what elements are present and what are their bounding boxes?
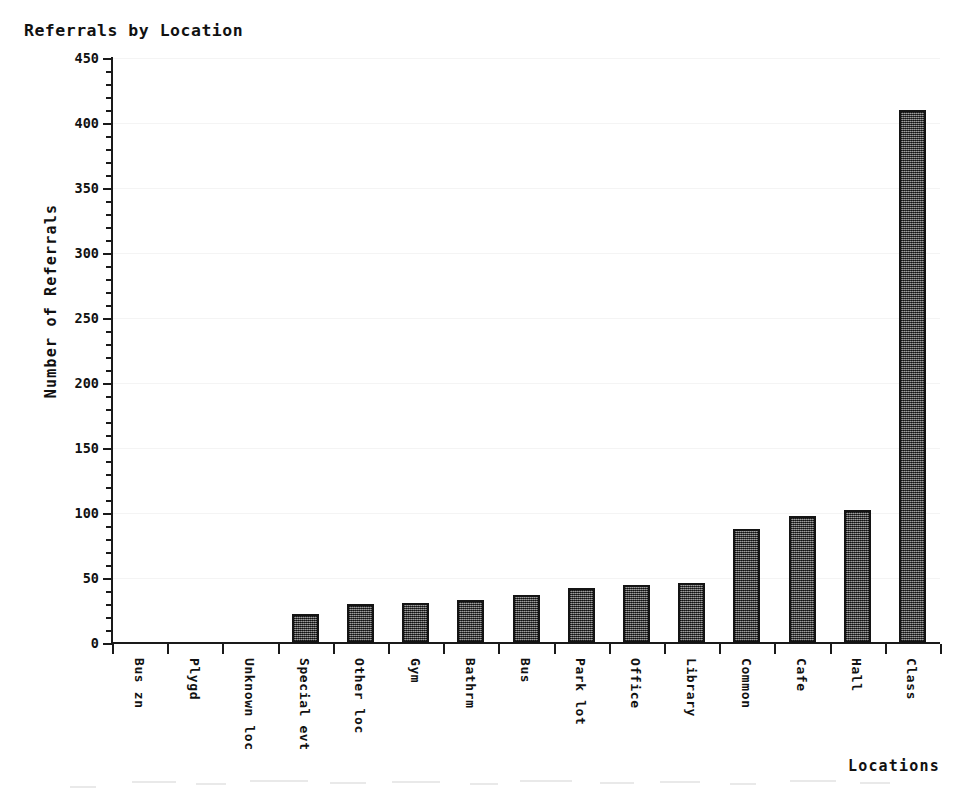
x-tick-label: Class — [901, 658, 919, 797]
y-tick-major — [103, 578, 112, 580]
x-tick — [443, 644, 445, 654]
y-tick-label: 50 — [37, 570, 99, 586]
scan-artifact — [660, 781, 700, 783]
y-tick-label: 250 — [37, 310, 99, 326]
y-tick-label: 100 — [37, 505, 99, 521]
y-tick-major — [103, 448, 112, 450]
y-axis-tick-labels: 050100150200250300350400450 — [33, 0, 99, 797]
scan-artifact — [392, 781, 440, 783]
x-tick — [885, 644, 887, 654]
x-tick — [278, 644, 280, 654]
bar[interactable] — [347, 604, 374, 643]
y-tick-major — [103, 188, 112, 190]
scan-artifact — [520, 780, 572, 782]
x-tick — [112, 644, 114, 654]
bar[interactable] — [899, 110, 926, 643]
scan-artifact — [470, 783, 498, 785]
x-tick-label: Park lot — [570, 658, 588, 797]
y-tick-label: 300 — [37, 245, 99, 261]
y-tick-major — [103, 513, 112, 515]
x-tick — [222, 644, 224, 654]
x-tick — [167, 644, 169, 654]
y-tick-major — [103, 123, 112, 125]
y-tick-label: 0 — [37, 635, 99, 651]
x-tick-label: Office — [625, 658, 643, 797]
y-tick-label: 450 — [37, 50, 99, 66]
x-tick — [498, 644, 500, 654]
x-tick — [554, 644, 556, 654]
x-tick-label: Gym — [405, 658, 423, 797]
bar[interactable] — [568, 588, 595, 643]
x-tick-label: Hall — [846, 658, 864, 797]
x-tick — [609, 644, 611, 654]
scan-artifact — [330, 782, 366, 784]
x-tick-label: Other loc — [349, 658, 367, 797]
bar[interactable] — [292, 614, 319, 643]
x-tick — [830, 644, 832, 654]
x-tick — [940, 644, 942, 654]
x-tick-label: Special evt — [294, 658, 312, 797]
x-tick-label: Plygd — [184, 658, 202, 797]
x-tick — [388, 644, 390, 654]
scan-artifact — [790, 780, 836, 782]
scan-artifact — [196, 783, 226, 785]
bar[interactable] — [623, 585, 650, 644]
x-tick-label: Common — [736, 658, 754, 797]
scan-artifact — [860, 782, 890, 784]
y-tick-major — [103, 643, 112, 645]
x-tick — [719, 644, 721, 654]
plot-area — [112, 58, 940, 643]
y-tick-label: 150 — [37, 440, 99, 456]
x-tick-label: Library — [681, 658, 699, 797]
x-tick — [774, 644, 776, 654]
y-tick-label: 400 — [37, 115, 99, 131]
scan-artifact — [600, 782, 634, 784]
bar[interactable] — [733, 529, 760, 643]
x-tick — [333, 644, 335, 654]
bar[interactable] — [678, 583, 705, 643]
bar[interactable] — [844, 510, 871, 643]
scan-artifact — [70, 786, 96, 788]
x-tick-label: Bus zn — [129, 658, 147, 797]
x-tick-label: Unknown loc — [239, 658, 257, 797]
x-tick-label: Cafe — [791, 658, 809, 797]
bar[interactable] — [402, 603, 429, 643]
scan-artifact — [250, 780, 308, 782]
y-tick-label: 350 — [37, 180, 99, 196]
y-tick-major — [103, 383, 112, 385]
bar[interactable] — [789, 516, 816, 643]
x-tick-label: Bus — [515, 658, 533, 797]
bar[interactable] — [457, 600, 484, 643]
y-tick-major — [103, 253, 112, 255]
scan-artifact — [132, 781, 176, 783]
y-tick-major — [103, 58, 112, 60]
bar-chart: Referrals by Location Number of Referral… — [0, 0, 958, 797]
y-tick-major — [103, 318, 112, 320]
scan-artifact — [730, 783, 756, 785]
y-tick-label: 200 — [37, 375, 99, 391]
x-tick — [664, 644, 666, 654]
bar[interactable] — [513, 595, 540, 643]
x-tick-label: Bathrm — [460, 658, 478, 797]
